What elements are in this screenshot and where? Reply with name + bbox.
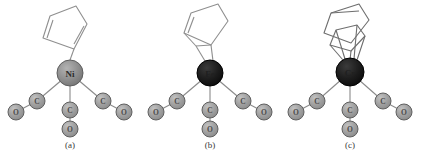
carbon-label: C	[380, 97, 385, 106]
oxygen-label: O	[207, 125, 213, 134]
oxygen-label: O	[293, 108, 299, 117]
metal-center-b[interactable]: Fe	[197, 60, 223, 86]
caption-a: (a)	[65, 140, 75, 150]
caption-b: (b)	[205, 140, 216, 150]
carbon-label: C	[100, 97, 105, 106]
metal-center-a[interactable]: Ni	[57, 60, 83, 86]
oxygen-label: O	[121, 108, 127, 117]
carbon-label: C	[34, 97, 39, 106]
oxygen-label: O	[261, 108, 267, 117]
carbon-label: C	[240, 97, 245, 106]
oxygen-label: O	[153, 108, 159, 117]
carbon-label: C	[207, 106, 212, 115]
carbon-label: C	[67, 106, 72, 115]
metal-symbol-c: Cr	[345, 68, 356, 78]
oxygen-label: O	[13, 108, 19, 117]
caption-c: (c)	[345, 140, 355, 150]
metal-center-c[interactable]: Cr	[336, 58, 364, 86]
oxygen-label: O	[401, 108, 407, 117]
oxygen-label: O	[347, 125, 353, 134]
figure-canvas: Ni C O C O C O (a)	[0, 0, 425, 158]
metal-symbol-a: Ni	[66, 69, 75, 79]
carbon-label: C	[314, 97, 319, 106]
metal-symbol-b: Fe	[205, 69, 215, 79]
oxygen-label: O	[67, 125, 73, 134]
carbon-label: C	[174, 97, 179, 106]
carbon-label: C	[347, 106, 352, 115]
